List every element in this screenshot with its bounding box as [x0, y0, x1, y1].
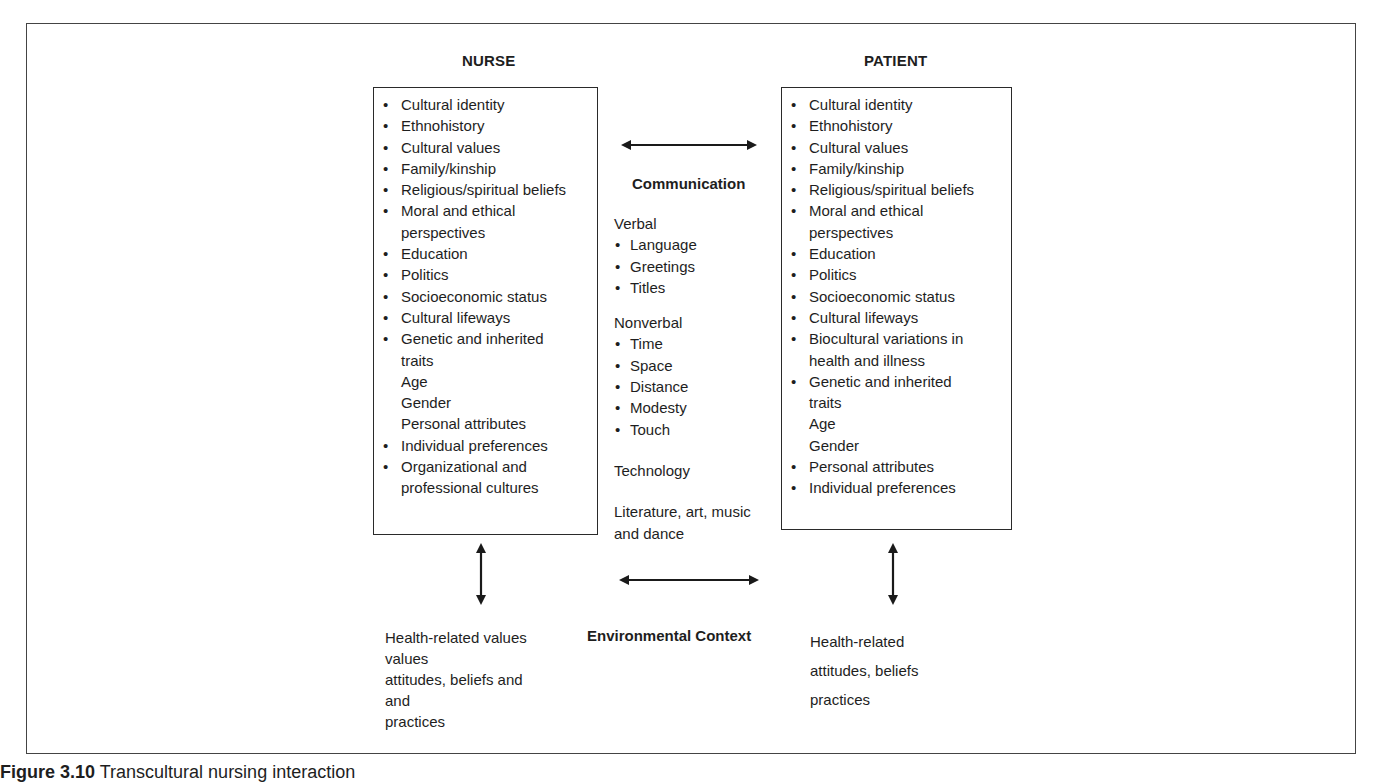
environment-double-arrow-icon	[616, 572, 762, 588]
nurse-attributes-list: Cultural identity Ethnohistory Cultural …	[374, 94, 591, 499]
list-item: Moral and ethical	[374, 200, 591, 221]
nonverbal-item: Distance	[614, 376, 751, 397]
list-item-sub: Gender	[374, 392, 591, 413]
list-item: Education	[374, 243, 591, 264]
list-item: Organizational and	[374, 456, 591, 477]
nurse-health-line: practices	[385, 711, 527, 732]
literature-label-line1: Literature, art, music	[614, 501, 751, 522]
communication-heading: Communication	[632, 175, 745, 192]
list-item-continuation: perspectives	[782, 222, 1005, 243]
literature-label-line2: and dance	[614, 523, 751, 544]
nonverbal-item: Space	[614, 355, 751, 376]
list-item: Family/kinship	[782, 158, 1005, 179]
list-item-sub: Personal attributes	[374, 413, 591, 434]
figure-caption-text: Transcultural nursing interaction	[100, 762, 355, 782]
environmental-context-heading: Environmental Context	[587, 627, 751, 644]
list-item: Politics	[782, 264, 1005, 285]
nurse-attributes-box: Cultural identity Ethnohistory Cultural …	[373, 87, 598, 535]
list-item: Individual preferences	[374, 435, 591, 456]
figure-caption-label: Figure 3.10	[0, 762, 95, 782]
list-item: Cultural values	[374, 137, 591, 158]
list-item-sub: Age	[782, 413, 1005, 434]
figure-caption: Figure 3.10 Transcultural nursing intera…	[0, 762, 355, 783]
list-item-continuation: traits	[374, 350, 591, 371]
list-item: Socioeconomic status	[782, 286, 1005, 307]
verbal-item: Language	[614, 234, 751, 255]
technology-label: Technology	[614, 460, 751, 481]
list-item-continuation: perspectives	[374, 222, 591, 243]
nonverbal-item: Touch	[614, 419, 751, 440]
list-item: Socioeconomic status	[374, 286, 591, 307]
list-item-continuation: professional cultures	[374, 477, 591, 498]
patient-heading: PATIENT	[864, 52, 927, 69]
nonverbal-label: Nonverbal	[614, 312, 751, 333]
list-item-continuation: health and illness	[782, 350, 1005, 371]
list-item: Cultural lifeways	[782, 307, 1005, 328]
verbal-item: Greetings	[614, 256, 751, 277]
nurse-health-line: and	[385, 690, 527, 711]
list-item: Individual preferences	[782, 477, 1005, 498]
list-item: Biocultural variations in	[782, 328, 1005, 349]
nurse-vertical-double-arrow-icon	[473, 540, 489, 608]
nurse-health-line: values	[385, 648, 527, 669]
patient-attributes-list: Cultural identity Ethnohistory Cultural …	[782, 94, 1005, 499]
nonverbal-item: Time	[614, 333, 751, 354]
list-item-sub: Age	[374, 371, 591, 392]
list-item: Ethnohistory	[374, 115, 591, 136]
patient-health-line: attitudes, beliefs	[810, 656, 918, 685]
patient-attributes-box: Cultural identity Ethnohistory Cultural …	[781, 87, 1012, 530]
nurse-health-related-text: Health-related values values attitudes, …	[385, 627, 527, 732]
list-item: Cultural identity	[374, 94, 591, 115]
verbal-item: Titles	[614, 277, 751, 298]
patient-health-line: practices	[810, 685, 918, 714]
list-item: Cultural identity	[782, 94, 1005, 115]
patient-health-line: Health-related	[810, 627, 918, 656]
patient-health-related-text: Health-related attitudes, beliefs practi…	[810, 627, 918, 714]
list-item: Politics	[374, 264, 591, 285]
list-item: Education	[782, 243, 1005, 264]
nurse-health-line: Health-related values	[385, 627, 527, 648]
list-item: Genetic and inherited	[374, 328, 591, 349]
list-item: Cultural values	[782, 137, 1005, 158]
communication-double-arrow-icon	[618, 137, 760, 153]
list-item: Moral and ethical	[782, 200, 1005, 221]
list-item-continuation: traits	[782, 392, 1005, 413]
list-item: Cultural lifeways	[374, 307, 591, 328]
list-item: Religious/spiritual beliefs	[782, 179, 1005, 200]
list-item-sub: Gender	[782, 435, 1005, 456]
list-item: Ethnohistory	[782, 115, 1005, 136]
nurse-health-line: attitudes, beliefs and	[385, 669, 527, 690]
list-item: Personal attributes	[782, 456, 1005, 477]
nurse-heading: NURSE	[462, 52, 516, 69]
patient-vertical-double-arrow-icon	[885, 540, 901, 608]
list-item: Genetic and inherited	[782, 371, 1005, 392]
list-item: Family/kinship	[374, 158, 591, 179]
list-item: Religious/spiritual beliefs	[374, 179, 591, 200]
communication-details: Verbal Language Greetings Titles Nonverb…	[614, 213, 751, 544]
verbal-label: Verbal	[614, 213, 751, 234]
nonverbal-item: Modesty	[614, 397, 751, 418]
